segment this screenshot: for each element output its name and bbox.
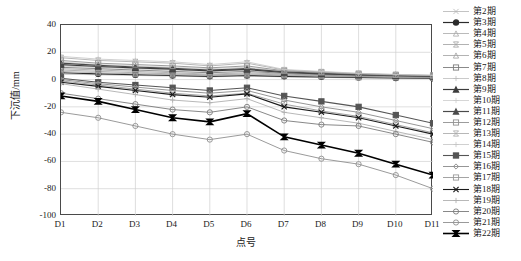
legend-item-label: 第13期: [473, 128, 500, 139]
legend-item-label: 第11期: [473, 106, 500, 117]
legend-marker-icon: [441, 39, 471, 50]
legend-item[interactable]: 第16期: [441, 161, 519, 172]
legend-marker-icon: [441, 195, 471, 206]
y-axis-tick-labels: 40200-20-40-60-80-100: [0, 24, 56, 215]
x-axis-tick-label: D4: [166, 219, 177, 229]
legend-item-label: 第5期: [473, 39, 496, 50]
x-axis-title: 点号: [60, 234, 432, 249]
x-axis-tick-label: D8: [315, 219, 326, 229]
legend-marker-icon: [441, 217, 471, 228]
legend-item[interactable]: 第19期: [441, 195, 519, 206]
legend-item-label: 第4期: [473, 28, 496, 39]
legend-marker-icon: [441, 50, 471, 61]
y-axis-tick-label: -40: [44, 128, 56, 138]
legend-item-label: 第6期: [473, 50, 496, 61]
legend-item-label: 第8期: [473, 73, 496, 84]
y-axis-tick-label: -80: [44, 183, 56, 193]
legend-item[interactable]: 第9期: [441, 84, 519, 95]
x-axis-tick-label: D2: [92, 219, 103, 229]
legend-item-label: 第20期: [473, 206, 500, 217]
legend-item-label: 第18期: [473, 184, 500, 195]
legend-item-label: 第2期: [473, 6, 496, 17]
legend-item[interactable]: 第14期: [441, 139, 519, 150]
chart-legend: 第2期第3期第4期第5期第6期第7期第8期第9期第10期第11期第12期第13期…: [441, 6, 519, 256]
legend-item[interactable]: 第15期: [441, 150, 519, 161]
legend-marker-icon: [441, 172, 471, 183]
legend-marker-icon: [441, 117, 471, 128]
legend-item[interactable]: 第5期: [441, 39, 519, 50]
legend-item-label: 第16期: [473, 161, 500, 172]
legend-marker-icon: [441, 6, 471, 17]
legend-item[interactable]: 第4期: [441, 28, 519, 39]
legend-item-label: 第14期: [473, 139, 500, 150]
legend-item-label: 第3期: [473, 17, 496, 28]
legend-item[interactable]: 第7期: [441, 61, 519, 72]
legend-marker-icon: [441, 73, 471, 84]
legend-item-label: 第15期: [473, 150, 500, 161]
series-line: [61, 93, 433, 177]
legend-item-label: 第12期: [473, 117, 500, 128]
legend-item[interactable]: 第13期: [441, 128, 519, 139]
x-axis-tick-label: D5: [203, 219, 214, 229]
legend-item[interactable]: 第10期: [441, 95, 519, 106]
x-axis-tick-label: D1: [55, 219, 66, 229]
y-axis-tick-label: 40: [47, 19, 56, 29]
legend-item[interactable]: 第12期: [441, 117, 519, 128]
x-axis-tick-label: D9: [352, 219, 363, 229]
legend-item-label: 第19期: [473, 195, 500, 206]
data-series-layer: [61, 25, 433, 216]
chart-figure: 下沉值/mm 40200-20-40-60-80-100 D1D2D3D4D5D…: [0, 0, 521, 261]
legend-item-label: 第10期: [473, 95, 500, 106]
x-axis-tick-label: D7: [278, 219, 289, 229]
x-axis-tick-label: D10: [387, 219, 403, 229]
legend-marker-icon: [441, 184, 471, 195]
y-axis-tick-label: -20: [44, 101, 56, 111]
legend-item-label: 第9期: [473, 84, 496, 95]
legend-marker-icon: [441, 139, 471, 150]
legend-marker-icon: [441, 84, 471, 95]
plot-area: [60, 24, 432, 215]
legend-marker-icon: [441, 106, 471, 117]
y-axis-tick-label: 20: [47, 46, 56, 56]
legend-item[interactable]: 第11期: [441, 106, 519, 117]
legend-marker-icon: [441, 95, 471, 106]
legend-item-label: 第21期: [473, 217, 500, 228]
legend-marker-icon: [441, 228, 471, 239]
legend-marker-icon: [441, 128, 471, 139]
x-axis-tick-label: D3: [129, 219, 140, 229]
legend-item-label: 第17期: [473, 172, 500, 183]
legend-item[interactable]: 第21期: [441, 217, 519, 228]
legend-item[interactable]: 第17期: [441, 172, 519, 183]
legend-item-label: 第7期: [473, 62, 496, 73]
legend-item[interactable]: 第8期: [441, 73, 519, 84]
legend-marker-icon: [441, 17, 471, 28]
x-axis-tick-labels: D1D2D3D4D5D6D7D8D9D10D11: [60, 219, 432, 233]
legend-item[interactable]: 第3期: [441, 17, 519, 28]
legend-item[interactable]: 第22期: [441, 228, 519, 239]
y-axis-tick-label: 0: [52, 74, 57, 84]
x-axis-tick-label: D6: [241, 219, 252, 229]
legend-marker-icon: [441, 150, 471, 161]
legend-marker-icon: [441, 206, 471, 217]
legend-item[interactable]: 第18期: [441, 184, 519, 195]
legend-marker-icon: [441, 28, 471, 39]
legend-marker-icon: [441, 62, 471, 73]
x-axis-tick-label: D11: [424, 219, 439, 229]
y-axis-tick-label: -60: [44, 155, 56, 165]
legend-item[interactable]: 第20期: [441, 206, 519, 217]
legend-item[interactable]: 第2期: [441, 6, 519, 17]
legend-item[interactable]: 第6期: [441, 50, 519, 61]
legend-item-label: 第22期: [473, 228, 500, 239]
legend-marker-icon: [441, 161, 471, 172]
